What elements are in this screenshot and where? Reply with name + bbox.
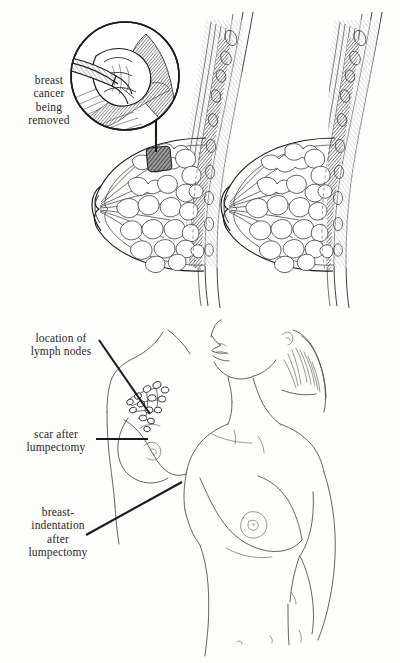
hair bbox=[282, 330, 326, 412]
label-location-of-lymph-nodes: location of lymph nodes bbox=[14, 332, 108, 359]
head-profile bbox=[211, 320, 293, 424]
label-breast-cancer-being-removed: breast cancer being removed bbox=[6, 74, 92, 128]
label-breast-indentation-after-lumpectomy: breast- indentation after lumpectomy bbox=[6, 506, 110, 560]
illustration-root: breast cancer being removed location of … bbox=[0, 0, 400, 663]
torso-body bbox=[184, 424, 335, 656]
far-side-torso bbox=[107, 330, 190, 544]
torso-figure bbox=[107, 320, 335, 656]
label-scar-after-lumpectomy: scar after lumpectomy bbox=[8, 428, 104, 455]
areola bbox=[241, 512, 267, 538]
tumor-mass bbox=[146, 146, 172, 172]
